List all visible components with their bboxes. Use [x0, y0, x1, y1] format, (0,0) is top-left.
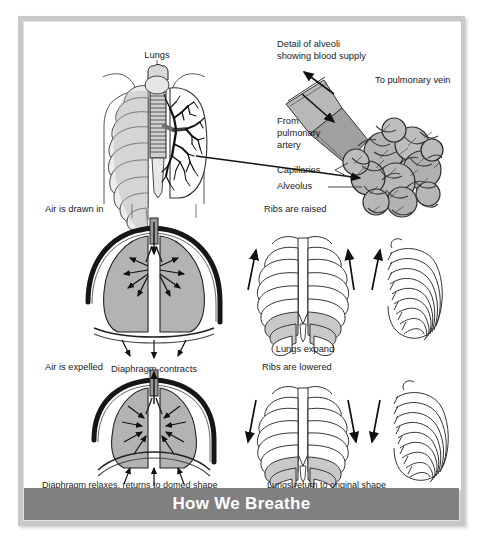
label-lungs: Lungs — [144, 50, 170, 60]
label-ribs-raised: Ribs are raised — [264, 204, 327, 214]
label-from-line1: From — [277, 116, 299, 126]
label-capillaries: Capillaries — [277, 165, 321, 175]
label-from-line2: pulmonary — [277, 128, 321, 138]
arrow-ribs-down-right — [348, 400, 356, 442]
arrow-ribs-down-left — [248, 400, 256, 442]
lung-right-outline — [170, 88, 207, 198]
panel-torso-lungs: Lungs — [103, 50, 207, 232]
panel-inhalation: Air is drawn in — [45, 204, 220, 374]
diaphragm-down-arrows — [122, 340, 186, 358]
caption-bar: How We Breathe — [24, 488, 459, 520]
label-air-drawn-in: Air is drawn in — [45, 204, 103, 214]
respiratory-diagram-figure: Lungs Detail of alveoli showing blood su… — [24, 22, 461, 490]
lung-left-exhale — [112, 388, 148, 468]
arrow-ribs-side-down — [372, 400, 380, 442]
label-to-pulmonary-vein: To pulmonary vein — [375, 75, 450, 85]
arrow-ribs-side-up — [372, 250, 380, 290]
lung-right-exhale — [160, 388, 196, 468]
lung-right-inhale — [160, 236, 204, 332]
label-ribs-lowered: Ribs are lowered — [262, 362, 332, 372]
arrow-ribs-up-left — [248, 250, 256, 290]
label-alveolus: Alveolus — [277, 181, 312, 191]
label-from-line3: artery — [277, 140, 301, 150]
arrow-ribs-up-right — [348, 250, 354, 290]
page-title: How We Breathe — [172, 494, 310, 514]
label-lungs-expand: Lungs expand — [276, 344, 334, 354]
panel-ribs-lowered-side — [372, 381, 448, 482]
lung-left-inhale — [104, 236, 148, 332]
label-detail-line2: showing blood supply — [277, 51, 366, 61]
panel-ribs-lowered-front: Ribs are lowered — [248, 362, 386, 490]
panel-ribs-raised-side — [372, 239, 442, 340]
diaphragm-inhale — [94, 328, 214, 337]
panel-ribs-raised-front: Ribs are raised — [248, 204, 354, 356]
label-air-expelled: Air is expelled — [45, 362, 103, 372]
poster-inner: Lungs Detail of alveoli showing blood su… — [23, 21, 460, 521]
panel-exhalation: Air is expelled — [42, 362, 218, 490]
label-detail-line1: Detail of alveoli — [277, 39, 340, 49]
poster-frame: Lungs Detail of alveoli showing blood su… — [18, 16, 465, 526]
panel-alveoli-detail: Detail of alveoli showing blood supply — [196, 39, 450, 217]
